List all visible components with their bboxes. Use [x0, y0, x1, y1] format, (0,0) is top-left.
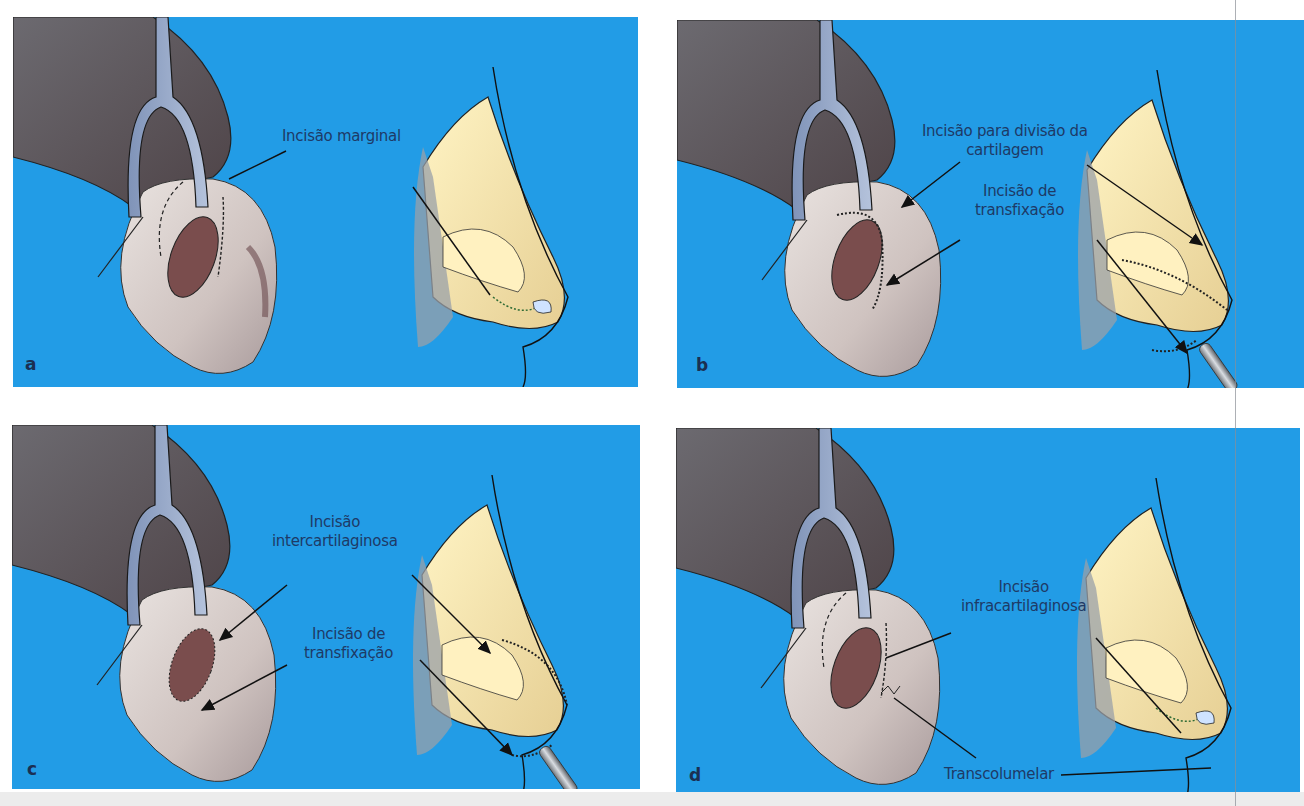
- label-line-2: intercartilaginosa: [272, 532, 398, 551]
- panel-a: Incisão marginal a: [13, 17, 638, 387]
- panel-a-illustration: [13, 17, 638, 387]
- bottom-margin: [0, 792, 1304, 806]
- panel-b: Incisão para divisão da cartilagem Incis…: [677, 20, 1304, 388]
- label-line-1: Incisão: [272, 513, 398, 532]
- label-incisao-infracartilaginosa: Incisão infracartilaginosa: [961, 578, 1086, 616]
- label-line-1: Incisão de: [975, 182, 1064, 201]
- panel-letter-b: b: [696, 355, 708, 375]
- label-incisao-transfixacao: Incisão de transfixação: [304, 625, 393, 663]
- panel-letter-a: a: [25, 354, 36, 374]
- label-line-1: Incisão de: [304, 625, 393, 644]
- panel-d: Incisão infracartilaginosa Transcolumela…: [676, 428, 1300, 797]
- label-line-2: infracartilaginosa: [961, 597, 1086, 616]
- scan-artifact-line: [1235, 0, 1236, 806]
- panel-letter-d: d: [689, 765, 701, 785]
- panel-letter-c: c: [27, 759, 37, 779]
- label-incisao-divisao-cartilagem: Incisão para divisão da cartilagem: [922, 122, 1088, 160]
- label-incisao-marginal: Incisão marginal: [282, 127, 401, 146]
- label-line-2: transfixação: [304, 644, 393, 663]
- label-incisao-intercartilaginosa: Incisão intercartilaginosa: [272, 513, 398, 551]
- panel-c-illustration: [12, 425, 640, 789]
- label-line-1: Incisão: [961, 578, 1086, 597]
- label-incisao-transfixacao: Incisão de transfixação: [975, 182, 1064, 220]
- panel-c: Incisão intercartilaginosa Incisão de tr…: [12, 425, 640, 789]
- label-line-2: cartilagem: [922, 141, 1088, 160]
- label-transcolumelar: Transcolumelar: [944, 765, 1054, 784]
- label-line-1: Incisão para divisão da: [922, 122, 1088, 141]
- label-line-2: transfixação: [975, 201, 1064, 220]
